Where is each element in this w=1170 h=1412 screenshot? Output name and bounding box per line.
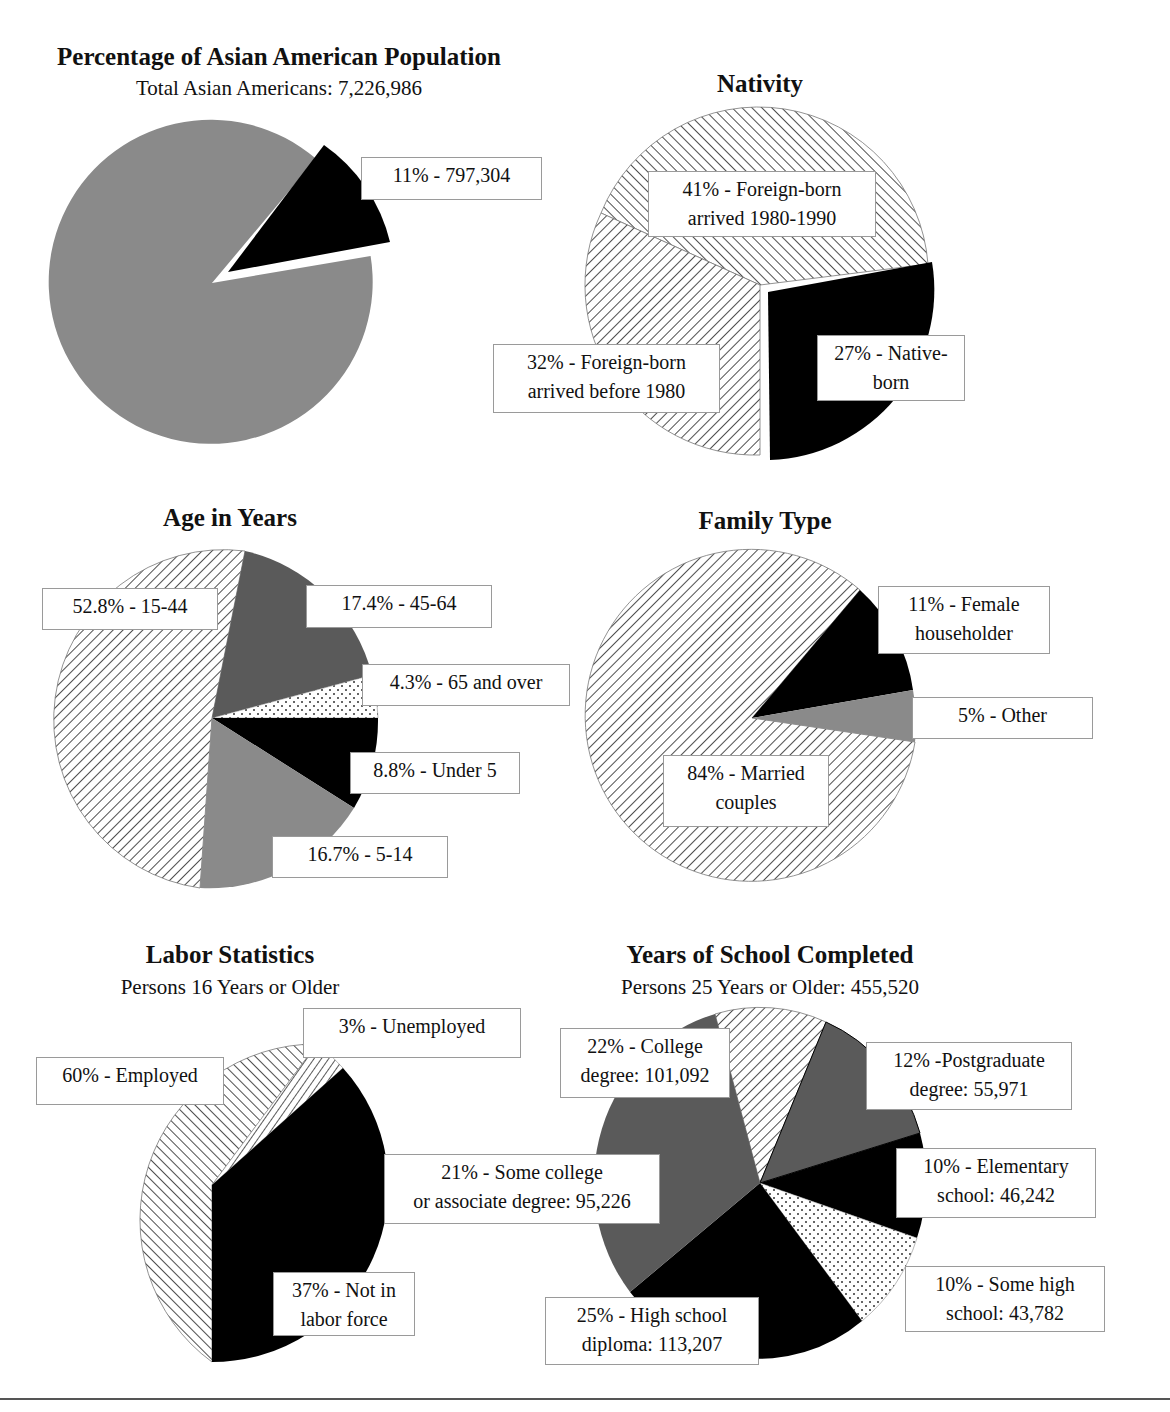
label-population-11pct: 11% - 797,304 <box>361 157 542 200</box>
label-line: school: 43,782 <box>912 1299 1098 1328</box>
label-line: labor force <box>280 1305 408 1334</box>
label-family-female: 11% - Female householder <box>878 586 1050 654</box>
label-line: or associate degree: 95,226 <box>391 1187 653 1216</box>
label-labor-employed: 60% - Employed <box>36 1057 224 1105</box>
label-nativity-before-1980: 32% - Foreign-born arrived before 1980 <box>493 344 720 413</box>
label-nativity-native-born: 27% - Native- born <box>817 335 965 401</box>
label-text: 8.8% - Under 5 <box>373 759 496 781</box>
label-school-some-high: 10% - Some high school: 43,782 <box>905 1266 1105 1332</box>
labor-subtitle: Persons 16 Years or Older <box>80 975 380 1000</box>
label-line: 10% - Elementary <box>903 1152 1089 1181</box>
label-line: diploma: 113,207 <box>552 1330 752 1359</box>
label-school-high-school: 25% - High school diploma: 113,207 <box>545 1297 759 1365</box>
label-labor-unemployed: 3% - Unemployed <box>303 1008 521 1058</box>
pie-population <box>49 120 390 444</box>
label-text: 4.3% - 65 and over <box>390 671 543 693</box>
label-text: 11% - 797,304 <box>393 164 511 186</box>
label-line: 27% - Native- <box>824 339 958 368</box>
label-line: degree: 55,971 <box>873 1075 1065 1104</box>
label-line: born <box>824 368 958 397</box>
family-title: Family Type <box>640 507 890 535</box>
label-school-postgraduate: 12% -Postgraduate degree: 55,971 <box>866 1042 1072 1110</box>
label-text: 52.8% - 15-44 <box>73 595 188 617</box>
label-line: school: 46,242 <box>903 1181 1089 1210</box>
label-line: degree: 101,092 <box>567 1061 723 1090</box>
school-title: Years of School Completed <box>590 941 950 969</box>
label-text: 60% - Employed <box>62 1064 198 1086</box>
label-age-45-64: 17.4% - 45-64 <box>306 585 492 628</box>
label-family-married: 84% - Married couples <box>663 755 829 827</box>
label-line: householder <box>885 619 1043 648</box>
label-line: 21% - Some college <box>391 1158 653 1187</box>
label-school-some-college: 21% - Some college or associate degree: … <box>384 1154 660 1224</box>
label-line: 11% - Female <box>885 590 1043 619</box>
footer-rule <box>0 1398 1170 1400</box>
pie-family <box>585 549 916 881</box>
label-line: 84% - Married <box>670 759 822 788</box>
population-subtitle: Total Asian Americans: 7,226,986 <box>38 76 520 101</box>
population-title: Percentage of Asian American Population <box>38 43 520 71</box>
label-school-elementary: 10% - Elementary school: 46,242 <box>896 1148 1096 1218</box>
nativity-title: Nativity <box>640 70 880 98</box>
label-line: arrived 1980-1990 <box>655 204 869 233</box>
label-text: 16.7% - 5-14 <box>308 843 413 865</box>
label-school-college: 22% - College degree: 101,092 <box>560 1028 730 1098</box>
label-line: arrived before 1980 <box>500 377 713 406</box>
label-line: 37% - Not in <box>280 1276 408 1305</box>
label-line: 10% - Some high <box>912 1270 1098 1299</box>
label-text: 3% - Unemployed <box>339 1015 486 1037</box>
label-line: 12% -Postgraduate <box>873 1046 1065 1075</box>
label-family-other: 5% - Other <box>912 697 1093 739</box>
labor-title: Labor Statistics <box>100 941 360 969</box>
label-line: 25% - High school <box>552 1301 752 1330</box>
label-age-65-over: 4.3% - 65 and over <box>362 664 570 706</box>
school-subtitle: Persons 25 Years or Older: 455,520 <box>580 975 960 1000</box>
label-labor-not-in-force: 37% - Not in labor force <box>273 1272 415 1336</box>
label-line: 41% - Foreign-born <box>655 175 869 204</box>
label-line: 32% - Foreign-born <box>500 348 713 377</box>
age-title: Age in Years <box>110 504 350 532</box>
label-nativity-1980-1990: 41% - Foreign-born arrived 1980-1990 <box>648 171 876 237</box>
label-age-5-14: 16.7% - 5-14 <box>272 836 448 878</box>
label-text: 17.4% - 45-64 <box>342 592 457 614</box>
label-line: couples <box>670 788 822 817</box>
label-age-15-44: 52.8% - 15-44 <box>42 588 218 630</box>
label-age-under-5: 8.8% - Under 5 <box>350 752 520 794</box>
label-text: 5% - Other <box>958 704 1047 726</box>
label-line: 22% - College <box>567 1032 723 1061</box>
